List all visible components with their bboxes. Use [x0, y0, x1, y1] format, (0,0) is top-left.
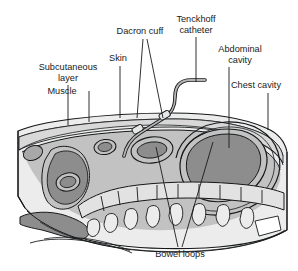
label-skin-line-1: Skin [109, 53, 127, 63]
label-tenckhoff-catheter: Tenckhoffcatheter [176, 14, 216, 35]
body-cross-section [18, 113, 287, 253]
label-skin: Skin [109, 53, 127, 63]
label-abdominal-cavity-line-2: cavity [228, 55, 252, 65]
label-chest-cavity-line-1: Chest cavity [231, 80, 281, 90]
spinous-process-4 [146, 206, 160, 228]
label-bowel-loops: Bowel loops [155, 249, 205, 259]
label-dacron-cuff-line-1: Dacron cuff [117, 26, 164, 36]
label-muscle-line-1: Muscle [47, 86, 76, 96]
spinous-process-7 [216, 205, 230, 227]
label-subcutaneous-layer-line-2: layer [58, 73, 78, 83]
label-dacron-cuff: Dacron cuff [117, 26, 164, 36]
label-subcutaneous-layer: Subcutaneouslayer [39, 62, 98, 83]
spinous-process-8 [240, 208, 254, 229]
leader-line-dacron-cuff-1 [137, 39, 143, 118]
label-bowel-loops-line-1: Bowel loops [155, 249, 205, 259]
label-abdominal-cavity: Abdominalcavity [218, 44, 261, 65]
anatomical-illustration: SubcutaneouslayerMuscleSkinDacron cuffTe… [0, 0, 298, 271]
label-subcutaneous-layer-line-1: Subcutaneous [39, 62, 98, 72]
label-tenckhoff-catheter-line-1: Tenckhoff [176, 14, 216, 24]
label-chest-cavity: Chest cavity [231, 80, 281, 90]
label-tenckhoff-catheter-line-2: catheter [179, 25, 212, 35]
leader-line-dacron-cuff-2 [147, 39, 163, 118]
spinous-process-3 [124, 209, 138, 230]
label-muscle: Muscle [47, 86, 76, 96]
label-abdominal-cavity-line-1: Abdominal [218, 44, 261, 54]
figure-container: SubcutaneouslayerMuscleSkinDacron cuffTe… [0, 0, 298, 271]
spinous-process-1 [87, 219, 100, 237]
spinous-process-2 [104, 213, 118, 232]
